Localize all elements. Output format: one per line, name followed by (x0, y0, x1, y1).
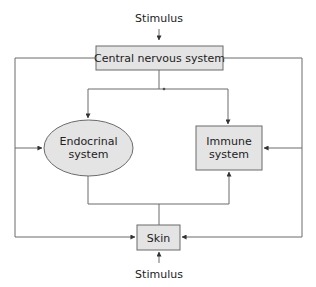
endocrine-label-line2: system (69, 148, 109, 161)
cns-label: Central nervous system (94, 52, 225, 65)
diagram-canvas: Stimulus Central nervous system Endocrin… (0, 0, 316, 287)
node-endocrine: Endocrinal system (44, 120, 133, 176)
endocrine-label-line1: Endocrinal (59, 135, 117, 148)
node-skin: Skin (137, 225, 180, 250)
node-cns: Central nervous system (94, 46, 225, 70)
stimulus-bottom-label: Stimulus (135, 268, 183, 281)
stimulus-top-label: Stimulus (135, 12, 183, 25)
skin-label: Skin (147, 232, 170, 245)
immune-label-line2: system (209, 148, 249, 161)
node-immune: Immune system (196, 126, 262, 170)
immune-label-line1: Immune (206, 135, 252, 148)
